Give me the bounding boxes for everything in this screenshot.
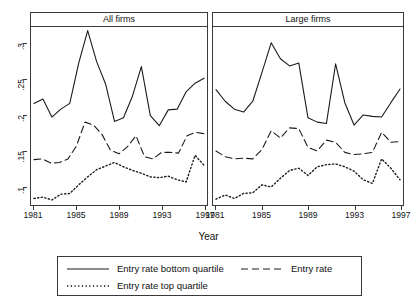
y-axis-tick-label: .1 [17,187,26,194]
x-axis-tick-label: 1985 [67,211,86,220]
series-line [34,31,204,126]
panel-large-firms: Large firms [212,12,404,206]
legend-item: Entry rate top quartile [66,278,208,294]
panel-all-firms: All firms [30,12,208,206]
x-axis-tick-label: 1989 [299,211,318,220]
series-line [34,122,204,163]
y-axis-tick-label: .3 [17,43,26,50]
x-axis-title: Year [0,232,417,242]
plot-area-all-firms [30,26,208,206]
legend-label: Entry rate top quartile [117,281,208,291]
panel-title-all-firms: All firms [30,12,208,27]
x-axis-tick-label: 1989 [110,211,129,220]
legend-label: Entry rate bottom quartile [117,264,224,274]
panel-title-text: Large firms [285,15,330,24]
x-axis-tick-label: 1981 [206,211,225,220]
series-line [216,43,400,125]
x-axis-tick-label: 1997 [392,211,411,220]
legend-line-swatch [240,264,284,274]
legend-item: Entry rate bottom quartile [66,261,224,277]
panel-title-large-firms: Large firms [212,12,404,27]
plot-area-large-firms [212,26,404,206]
chart-legend: Entry rate bottom quartileEntry rateEntr… [57,256,362,296]
x-axis-tick-label: 1985 [252,211,271,220]
series-line [216,159,400,199]
panel-title-text: All firms [103,15,135,24]
x-axis-large-firms: 19811985198919931997 [212,206,404,228]
legend-line-swatch [66,264,110,274]
x-axis-all-firms: 19811985198919931997 [30,206,208,228]
y-axis: .1.15.2.25.3 [0,0,30,303]
y-axis-tick-label: .25 [17,79,26,91]
y-axis-tick-label: .15 [17,151,26,163]
chart-figure: .1.15.2.25.3 All firms Large firms 19811… [0,0,417,303]
legend-item: Entry rate [240,261,332,277]
x-axis-tick-label: 1993 [153,211,172,220]
legend-label: Entry rate [291,264,332,274]
legend-line-swatch [66,281,110,291]
x-axis-tick-label: 1993 [345,211,364,220]
series-line [216,128,400,159]
y-axis-tick-label: .2 [17,115,26,122]
x-axis-tick-label: 1981 [24,211,43,220]
